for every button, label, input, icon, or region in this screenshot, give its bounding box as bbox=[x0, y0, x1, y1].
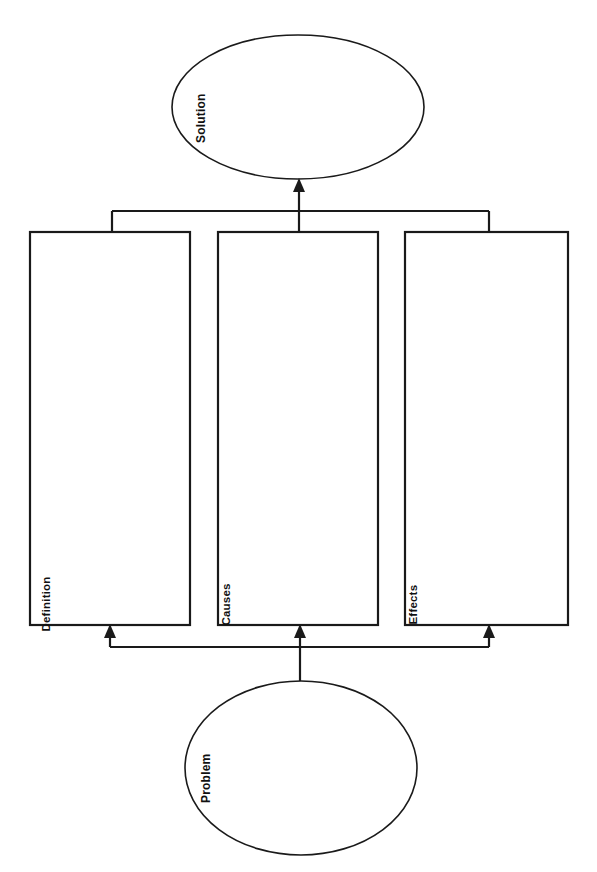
effects-label: Effects bbox=[408, 585, 420, 625]
problem-to-boxes-connector bbox=[104, 624, 495, 681]
solution-label: Solution bbox=[195, 93, 207, 143]
effects-box[interactable] bbox=[405, 232, 568, 625]
boxes-to-solution-connector bbox=[112, 178, 489, 233]
definition-box[interactable] bbox=[30, 232, 190, 625]
diagram-canvas bbox=[0, 0, 597, 872]
problem-label: Problem bbox=[200, 754, 212, 803]
solution-oval[interactable] bbox=[172, 35, 424, 179]
causes-box[interactable] bbox=[218, 232, 378, 625]
definition-label: Definition bbox=[41, 576, 53, 631]
arrow-head-to-solution bbox=[293, 178, 305, 192]
graphic-organizer-diagram: Solution Definition Causes Effects Probl… bbox=[0, 0, 597, 872]
causes-label: Causes bbox=[221, 583, 233, 625]
problem-oval[interactable] bbox=[185, 681, 417, 855]
